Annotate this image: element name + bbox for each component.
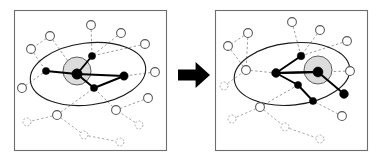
core-node <box>340 90 349 99</box>
peripheral-node <box>242 66 251 75</box>
panel-before <box>15 11 167 151</box>
peripheral-node <box>316 135 324 143</box>
peripheral-node <box>343 37 352 46</box>
panel-frame <box>15 11 167 151</box>
peripheral-node <box>228 115 236 123</box>
peripheral-node <box>338 112 347 121</box>
core-node <box>294 81 301 88</box>
peripheral-node <box>144 94 153 103</box>
core-node <box>90 84 97 91</box>
peripheral-node <box>53 111 62 120</box>
panel-after <box>216 11 368 151</box>
peripheral-node <box>23 118 31 126</box>
peripheral-node <box>87 21 96 30</box>
peripheral-node <box>18 84 27 93</box>
figure-container <box>0 0 377 158</box>
peripheral-node <box>80 131 88 139</box>
peripheral-node <box>346 67 355 76</box>
core-node <box>120 72 128 80</box>
core-node <box>272 69 281 78</box>
core-node <box>72 69 82 79</box>
peripheral-node <box>135 121 143 129</box>
transition-arrow-icon <box>178 62 210 88</box>
core-node <box>309 97 316 104</box>
peripheral-node <box>46 32 55 41</box>
core-node <box>313 67 323 77</box>
peripheral-node <box>116 138 124 146</box>
peripheral-node <box>281 123 289 131</box>
peripheral-node <box>256 103 265 112</box>
peripheral-node <box>27 45 36 54</box>
network-diagram-svg <box>0 0 377 158</box>
core-node <box>88 52 95 59</box>
peripheral-node <box>151 68 160 77</box>
peripheral-node <box>224 42 233 51</box>
peripheral-node <box>141 40 150 49</box>
core-edge <box>276 72 318 73</box>
peripheral-node <box>117 29 126 38</box>
peripheral-node <box>288 18 297 27</box>
peripheral-node <box>220 82 228 90</box>
peripheral-node <box>316 26 325 35</box>
peripheral-node <box>112 106 121 115</box>
core-node <box>297 52 305 60</box>
peripheral-node <box>244 29 253 38</box>
core-node <box>42 67 49 74</box>
